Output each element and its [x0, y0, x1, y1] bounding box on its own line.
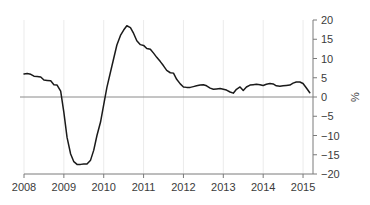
x-tick-label: 2008 [12, 182, 36, 193]
y-axis-unit-label: % [349, 92, 361, 102]
x-tick-label: 2013 [211, 182, 235, 193]
y-tick-label: 15 [321, 34, 333, 45]
x-axis [24, 174, 313, 178]
y-tick-label: −20 [321, 169, 340, 180]
chart-plot-area [0, 0, 370, 205]
y-tick-label: 20 [321, 15, 333, 26]
y-tick-label: 10 [321, 53, 333, 64]
chart-container: 20082009201020112012201320142015 2015105… [0, 0, 370, 205]
y-tick-label: −15 [321, 149, 340, 160]
y-tick-label: 5 [321, 72, 327, 83]
x-tick-label: 2009 [52, 182, 76, 193]
x-tick-label: 2011 [132, 182, 156, 193]
y-tick-label: 0 [321, 92, 327, 103]
x-tick-label: 2012 [171, 182, 195, 193]
y-tick-label: −10 [321, 130, 340, 141]
x-tick-label: 2015 [291, 182, 315, 193]
y-tick-label: −5 [321, 111, 334, 122]
data-series-line [24, 26, 310, 165]
x-tick-label: 2010 [91, 182, 115, 193]
x-tick-label: 2014 [251, 182, 275, 193]
y-axis [313, 20, 317, 174]
